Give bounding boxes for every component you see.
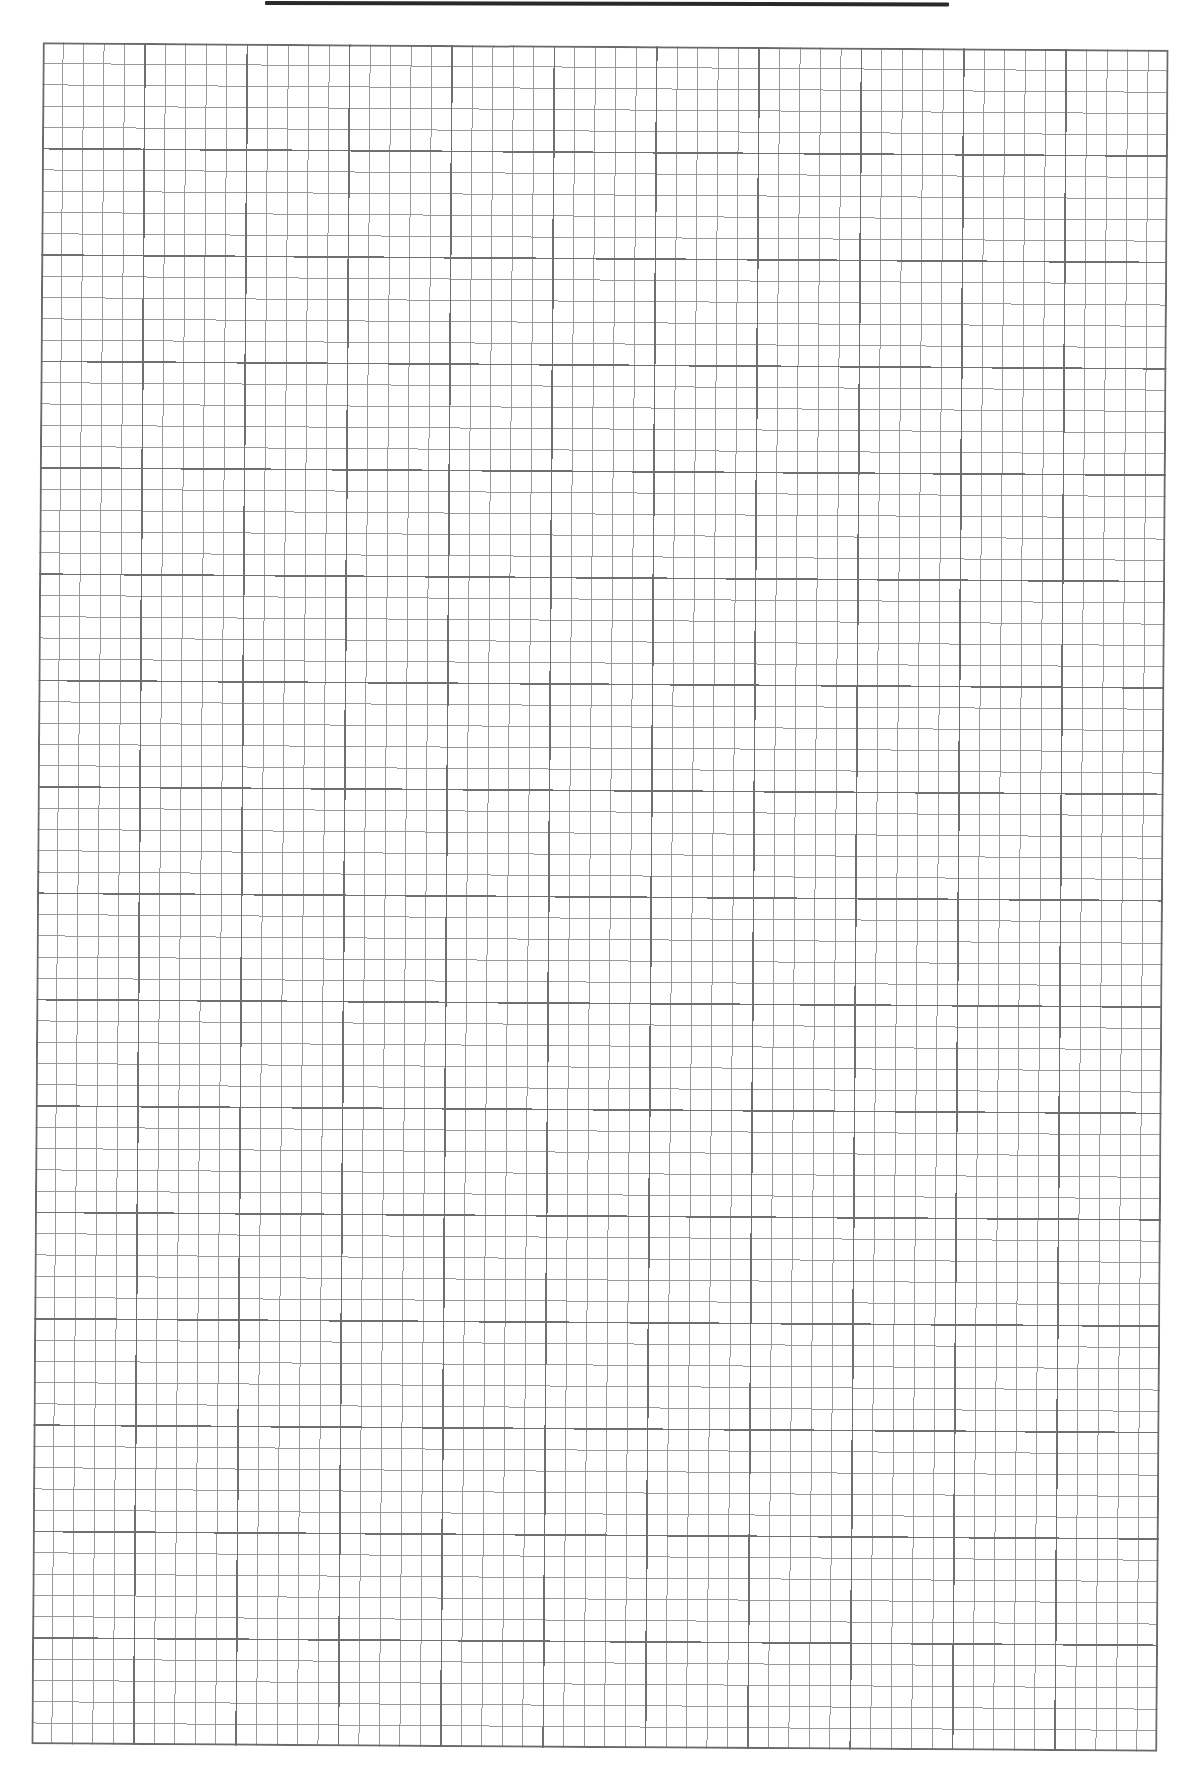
header-rule-line — [265, 1, 949, 6]
grid-lines — [31, 42, 1168, 1751]
graph-paper-grid — [31, 42, 1168, 1751]
